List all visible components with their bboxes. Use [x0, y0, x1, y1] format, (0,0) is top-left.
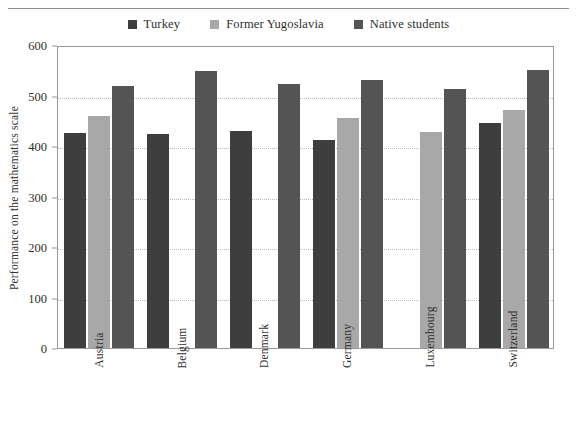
x-tick-label: Austria — [91, 352, 105, 416]
bar — [278, 84, 300, 348]
legend-swatch-former-yugoslavia — [210, 20, 219, 29]
plot-area — [57, 46, 554, 349]
legend-swatch-turkey — [128, 20, 137, 29]
legend-entry-turkey: Turkey — [128, 17, 181, 32]
y-tick-label: 0 — [41, 342, 47, 357]
bar-group — [63, 47, 135, 348]
bar-group — [478, 47, 550, 348]
legend-entry-native-students: Native students — [354, 17, 450, 32]
bar — [337, 118, 359, 348]
y-tick-label: 500 — [28, 89, 47, 104]
x-tick-label: Denmark — [257, 352, 271, 416]
legend-entry-former-yugoslavia: Former Yugoslavia — [210, 17, 324, 32]
bar — [88, 116, 110, 348]
bar — [527, 70, 549, 348]
bar — [112, 86, 134, 348]
x-tick-label: Belgium — [174, 352, 188, 416]
y-tick-label: 100 — [28, 291, 47, 306]
bar — [147, 134, 169, 348]
y-tick-label: 300 — [28, 190, 47, 205]
y-tick-label: 600 — [28, 39, 47, 54]
x-tick-label-text: Belgium — [175, 327, 187, 368]
x-tick-label-text: Germany — [341, 324, 353, 368]
x-tick-label-text: Switzerland — [507, 311, 519, 368]
x-tick-label-text: Denmark — [258, 324, 270, 368]
top-divider-rule — [8, 8, 569, 9]
bar-group — [229, 47, 301, 348]
chart-legend: Turkey Former Yugoslavia Native students — [0, 14, 577, 34]
y-tick-label: 200 — [28, 241, 47, 256]
y-tick-label: 400 — [28, 140, 47, 155]
bar-group — [395, 47, 467, 348]
y-axis: 0100200300400500600 — [0, 46, 57, 349]
legend-label-former-yugoslavia: Former Yugoslavia — [226, 17, 324, 32]
legend-label-turkey: Turkey — [144, 17, 181, 32]
x-axis: AustriaBelgiumDenmarkGermanyLuxembourgSw… — [57, 350, 554, 418]
x-tick-label: Luxembourg — [423, 352, 437, 416]
x-tick-label-text: Austria — [92, 333, 104, 368]
bar-group — [312, 47, 384, 348]
bar — [195, 71, 217, 348]
bar — [444, 89, 466, 348]
bar — [64, 133, 86, 348]
legend-swatch-native-students — [354, 20, 363, 29]
bar — [230, 131, 252, 348]
x-tick-label-text: Luxembourg — [424, 307, 436, 368]
bar-series-layer — [58, 47, 553, 348]
x-tick-label: Switzerland — [506, 352, 520, 416]
bar — [361, 80, 383, 348]
bar-group — [146, 47, 218, 348]
legend-label-native-students: Native students — [370, 17, 450, 32]
bar — [479, 123, 501, 348]
bar — [313, 140, 335, 348]
x-tick-label: Germany — [340, 352, 354, 416]
